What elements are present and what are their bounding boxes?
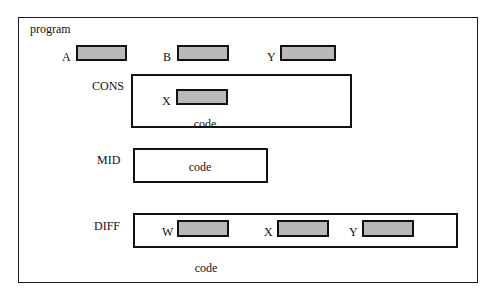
- slot-label-y: Y: [267, 51, 276, 63]
- block-label-diff: DIFF: [94, 220, 120, 232]
- slot-box-y: [362, 220, 414, 237]
- slot-box-y: [280, 45, 336, 61]
- code-caption-mid: code: [155, 161, 245, 173]
- slot-label-x: X: [162, 95, 171, 107]
- slot-label-y: Y: [349, 226, 358, 238]
- diagram-canvas: programABYCONScodeXMIDcodeDIFFcodeWXY: [0, 0, 496, 299]
- code-caption-cons: code: [160, 118, 250, 130]
- slot-box-b: [177, 45, 229, 61]
- block-label-mid: MID: [97, 154, 120, 166]
- slot-label-a: A: [62, 51, 71, 63]
- block-label-cons: CONS: [92, 80, 124, 92]
- slot-label-x: X: [264, 226, 273, 238]
- slot-box-w: [177, 220, 229, 237]
- code-caption-diff: code: [161, 262, 251, 274]
- slot-label-w: W: [162, 226, 173, 238]
- program-label: program: [30, 23, 71, 35]
- slot-box-x: [277, 220, 329, 237]
- slot-box-a: [76, 45, 127, 61]
- slot-box-x: [176, 89, 228, 105]
- slot-label-b: B: [163, 51, 171, 63]
